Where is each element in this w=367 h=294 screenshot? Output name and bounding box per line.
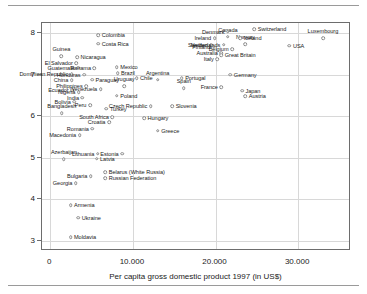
- x-axis-tick-label: 20.000: [202, 257, 226, 266]
- data-point-label: Moldavia: [74, 234, 96, 240]
- y-axis-tick-mark: [37, 32, 41, 33]
- data-point-label: Azerbaijan: [51, 149, 77, 155]
- data-point-label: Nicaragua: [81, 54, 106, 60]
- y-axis-tick-label: 8: [17, 28, 35, 37]
- data-point-label: Latvia: [100, 155, 115, 161]
- data-point: [243, 95, 247, 99]
- data-point: [62, 158, 66, 162]
- y-axis-tick-label: 7: [17, 69, 35, 78]
- data-point-label: Netherlands: [191, 41, 221, 47]
- data-point: [96, 152, 100, 156]
- data-point: [156, 129, 160, 133]
- data-point-label: Switzerland: [258, 26, 286, 32]
- data-point-label: Hungary: [148, 115, 169, 121]
- data-point: [288, 44, 292, 48]
- data-point: [88, 103, 92, 107]
- plot-area: ColombiaCosta RicaGuineaNicaraguaEl Salv…: [41, 22, 350, 250]
- data-point: [222, 43, 226, 47]
- x-axis-tick-label: 30.000: [285, 257, 309, 266]
- data-point-label: Armenia: [74, 202, 94, 208]
- gridline-vertical: [133, 23, 134, 249]
- data-point-label: Venezuela: [71, 86, 97, 92]
- data-point: [75, 56, 79, 60]
- data-point: [170, 104, 174, 108]
- data-point-label: USA: [293, 43, 304, 49]
- data-point-label: Macedonia: [49, 132, 76, 138]
- data-point: [149, 105, 153, 109]
- data-point: [182, 86, 186, 90]
- data-point: [122, 85, 126, 89]
- data-point: [96, 34, 100, 38]
- data-point: [93, 66, 97, 70]
- data-point-label: Russian Federation: [109, 175, 157, 181]
- data-point-label: Ireland: [194, 35, 211, 41]
- gridline-horizontal: [42, 158, 349, 159]
- data-point: [215, 57, 219, 61]
- data-point: [74, 182, 78, 186]
- y-axis-tick-label: 3: [17, 235, 35, 244]
- data-point: [78, 133, 82, 137]
- data-point-label: Panama: [70, 65, 91, 71]
- data-point: [107, 121, 111, 125]
- data-point: [99, 87, 103, 91]
- data-point-label: Great Britain: [225, 52, 256, 58]
- data-point-label: Colombia: [102, 32, 125, 38]
- data-point-label: Argentina: [146, 70, 170, 76]
- data-point: [243, 42, 247, 46]
- data-point-label: Czech Republic: [109, 103, 147, 109]
- y-axis-tick-mark: [37, 157, 41, 158]
- data-point: [135, 76, 139, 80]
- data-point-label: Spain: [177, 78, 191, 84]
- data-point: [90, 78, 94, 82]
- y-axis-tick-mark: [37, 115, 41, 116]
- data-point-label: Iceland: [244, 35, 262, 41]
- y-axis-tick-mark: [37, 240, 41, 241]
- data-point: [116, 71, 120, 75]
- data-point-label: Italy: [204, 56, 214, 62]
- gridline-horizontal: [42, 199, 349, 200]
- data-point-label: Germany: [234, 72, 257, 78]
- data-point: [120, 152, 124, 156]
- data-point: [81, 96, 85, 100]
- data-point: [240, 89, 244, 93]
- data-point: [70, 78, 74, 82]
- data-point-label: Uruguay: [114, 76, 135, 82]
- data-point: [95, 157, 99, 161]
- data-point: [60, 54, 64, 58]
- data-point: [77, 216, 81, 220]
- data-point: [69, 236, 73, 240]
- data-point-label: Slovenia: [176, 103, 197, 109]
- x-axis-title: Per capita gross domestic product 1997 (…: [41, 272, 350, 281]
- data-point: [89, 175, 93, 179]
- data-point: [226, 35, 230, 39]
- gridline-horizontal: [42, 241, 349, 242]
- data-point-label: France: [201, 84, 218, 90]
- data-point: [60, 111, 64, 115]
- data-point: [219, 85, 223, 89]
- data-point: [115, 94, 119, 98]
- data-point-label: Bulgaria: [67, 173, 87, 179]
- y-axis-tick-label: 6: [17, 111, 35, 120]
- data-point: [115, 66, 119, 70]
- data-point-label: Peru: [75, 102, 87, 108]
- data-point: [230, 47, 234, 51]
- y-axis-tick-label: 5: [17, 152, 35, 161]
- data-point-label: Croatia: [88, 119, 106, 125]
- data-point-label: Austria: [249, 93, 266, 99]
- x-axis-tick-label: 0: [47, 257, 51, 266]
- data-point: [321, 37, 325, 41]
- data-point: [142, 117, 146, 121]
- data-point: [103, 177, 107, 181]
- y-axis-title: Satisfaction with life in the 1990s (on …: [0, 0, 8, 18]
- data-point-label: Guinea: [53, 46, 71, 52]
- data-point: [96, 42, 100, 46]
- data-point-label: Costa Rica: [102, 41, 129, 47]
- data-point: [82, 73, 86, 77]
- data-point-label: Denmark: [202, 29, 224, 35]
- data-point: [253, 27, 257, 31]
- data-point-label: Bangladesh: [47, 103, 76, 109]
- data-point-label: Luxembourg: [308, 28, 339, 34]
- scatter-plot-figure: Satisfaction with life in the 1990s (on …: [0, 0, 367, 294]
- gridline-vertical: [298, 23, 299, 249]
- data-point: [238, 37, 242, 41]
